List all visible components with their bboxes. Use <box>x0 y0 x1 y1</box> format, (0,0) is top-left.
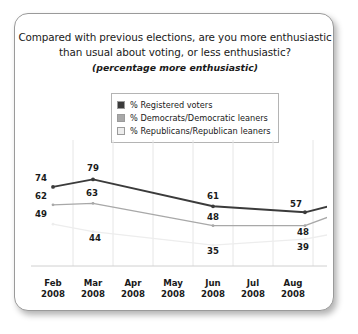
x-axis-tick-year: 2008 <box>33 289 73 300</box>
chart-subtitle: (percentage more enthusiastic) <box>15 60 335 75</box>
data-point-label: 44 <box>89 233 101 243</box>
x-axis-tick-month: May <box>153 278 193 289</box>
x-axis-tick-apr: Apr2008 <box>113 278 153 300</box>
legend-item-registered-voters: % Registered voters <box>117 99 271 111</box>
data-point-label: 62 <box>35 191 47 201</box>
x-axis-tick-year: 2008 <box>153 289 193 300</box>
legend-item-label: % Republicans/Republican leaners <box>130 126 271 136</box>
x-axis-tick-month: Feb <box>33 278 73 289</box>
page-title-line-2: than usual about voting, or less enthusi… <box>15 45 335 60</box>
chart-plot-area: 747961576162634848544944353942 <box>31 140 327 274</box>
x-axis-tick-jul: Jul2008 <box>233 278 273 300</box>
x-axis-tick-may: May2008 <box>153 278 193 300</box>
legend-swatch-icon <box>117 101 125 109</box>
data-point-label: 49 <box>35 209 47 219</box>
chart-x-axis: Feb2008Mar2008Apr2008May2008Jun2008Jul20… <box>31 276 327 310</box>
data-point-label: 79 <box>87 163 99 173</box>
data-point-label: 48 <box>297 227 309 237</box>
x-axis-tick-jun: Jun2008 <box>193 278 233 300</box>
x-axis-tick-month: Aug <box>273 278 313 289</box>
x-axis-tick-feb: Feb2008 <box>33 278 73 300</box>
legend-item-label: % Democrats/Democratic leaners <box>130 113 268 123</box>
x-axis-tick-year: 2008 <box>73 289 113 300</box>
legend-item-democrats: % Democrats/Democratic leaners <box>117 112 271 124</box>
legend-swatch-icon <box>117 127 125 135</box>
chart-title-block: Compared with previous elections, are yo… <box>15 30 335 75</box>
data-point-label: 63 <box>86 188 98 198</box>
x-axis-tick-year: 2008 <box>273 289 313 300</box>
data-point-label: 48 <box>207 212 219 222</box>
x-axis-tick-month: Mar <box>73 278 113 289</box>
x-axis-tick-year: 2008 <box>233 289 273 300</box>
x-axis-tick-month: Jun <box>193 278 233 289</box>
data-point-label: 35 <box>207 246 219 256</box>
line-chart-svg: 747961576162634848544944353942 <box>31 140 327 274</box>
x-axis-tick-mar: Mar2008 <box>73 278 113 300</box>
x-axis-tick-year: 2008 <box>113 289 153 300</box>
x-axis-tick-aug: Aug2008 <box>273 278 313 300</box>
data-point-label: 74 <box>35 173 47 183</box>
data-point-label: 57 <box>290 199 302 209</box>
page-title-line-1: Compared with previous elections, are yo… <box>15 30 335 45</box>
data-point-label: 61 <box>207 191 219 201</box>
legend-swatch-icon <box>117 114 125 122</box>
x-axis-tick-month: Jul <box>233 278 273 289</box>
chart-card: Compared with previous elections, are yo… <box>14 13 334 311</box>
legend-item-republicans: % Republicans/Republican leaners <box>117 125 271 137</box>
data-point-label: 39 <box>297 242 309 252</box>
x-axis-tick-month: Apr <box>113 278 153 289</box>
legend-item-label: % Registered voters <box>130 100 212 110</box>
x-axis-tick-year: 2008 <box>193 289 233 300</box>
chart-legend: % Registered voters % Democrats/Democrat… <box>111 93 279 143</box>
